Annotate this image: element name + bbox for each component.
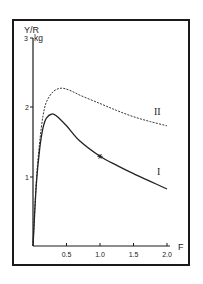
y-tick-label-1: 1: [25, 174, 29, 181]
x-axis-label: F: [178, 242, 184, 252]
x-tick-label-1.0: 1.0: [95, 251, 105, 258]
series-II-label: II: [154, 106, 161, 117]
series-I-label: I: [157, 166, 160, 177]
x-tick-label-2.0: 2.0: [162, 251, 172, 258]
x-tick-label-1.5: 1.5: [129, 251, 139, 258]
x-tick-label-0.5: 0.5: [62, 251, 72, 258]
series-I-curve: [33, 114, 167, 246]
series-II-curve: [33, 88, 167, 246]
chart: 3 2 1 0.5 1.0 1.5 2.0 Y/R kg F II I: [0, 0, 203, 284]
y-tick-label-2: 2: [25, 104, 29, 111]
y-axis-unit: kg: [34, 33, 43, 43]
y-tick-label-3: 3: [24, 35, 28, 42]
